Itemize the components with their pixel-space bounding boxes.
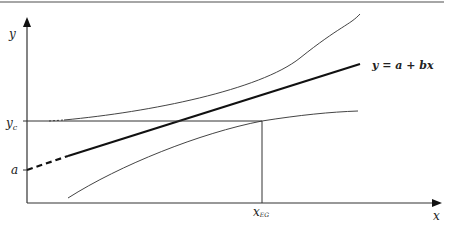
xeg-label: xEG [253, 205, 269, 219]
regression-line-extrapolated [27, 156, 68, 170]
regression-equation: y = a + bx [371, 59, 434, 72]
a-label: a [11, 163, 18, 177]
upper-confidence-band [64, 14, 360, 120]
regression-line [68, 64, 360, 156]
y-axis-label: y [8, 27, 16, 41]
x-axis-label: x [433, 209, 440, 223]
x-axis-arrow [432, 199, 442, 207]
y-axis-arrow [23, 17, 31, 27]
yc-label: yc [5, 116, 18, 132]
lower-confidence-band [68, 111, 358, 198]
regression-diagram: y x yc a xEG y = a + bx [0, 0, 452, 225]
